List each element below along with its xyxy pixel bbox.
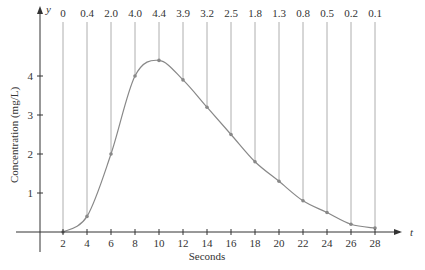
y-tick-label: 3 [28, 109, 34, 121]
value-label: 0.4 [80, 7, 94, 19]
data-point [229, 133, 233, 137]
data-point [253, 160, 257, 164]
data-point [109, 152, 113, 156]
x-tick-label: 24 [322, 237, 334, 249]
x-axis-symbol: t [410, 226, 414, 238]
concentration-curve [63, 60, 375, 232]
value-label: 1.8 [248, 7, 262, 19]
concentration-chart: 00.42.04.04.43.93.22.51.81.30.80.50.20.1… [0, 0, 425, 270]
data-point [133, 74, 137, 78]
x-tick-label: 18 [250, 237, 262, 249]
x-tick-label: 6 [108, 237, 114, 249]
x-tick-label: 28 [370, 237, 382, 249]
y-axis-arrow-icon [37, 6, 43, 14]
value-label: 0.8 [296, 7, 310, 19]
x-tick-label: 16 [226, 237, 238, 249]
x-tick-label: 20 [274, 237, 286, 249]
value-label: 0.2 [344, 7, 358, 19]
x-tick-label: 26 [346, 237, 358, 249]
y-axis-symbol: y [45, 3, 51, 15]
value-label: 1.3 [272, 7, 286, 19]
x-tick-label: 8 [132, 237, 138, 249]
x-tick-label: 12 [178, 237, 189, 249]
x-tick-label: 14 [202, 237, 214, 249]
data-point [181, 78, 185, 82]
x-tick-label: 22 [298, 237, 309, 249]
value-label: 4.4 [152, 7, 166, 19]
value-label: 3.2 [200, 7, 214, 19]
x-tick-label: 4 [84, 237, 90, 249]
x-tick-label: 2 [60, 237, 66, 249]
value-label: 3.9 [176, 7, 190, 19]
y-tick-label: 1 [28, 187, 34, 199]
y-tick-label: 4 [28, 70, 34, 82]
value-label: 0 [60, 7, 66, 19]
data-point [301, 199, 305, 203]
value-label: 0.5 [320, 7, 334, 19]
data-point [157, 59, 161, 63]
data-point [205, 105, 209, 109]
value-label: 4.0 [128, 7, 142, 19]
y-axis-title: Concentration (mg/L) [8, 87, 21, 184]
value-label: 2.5 [224, 7, 238, 19]
x-axis-arrow-icon [394, 229, 402, 235]
data-point [325, 211, 329, 215]
y-tick-label: 2 [28, 148, 34, 160]
data-point [349, 222, 353, 226]
value-label: 2.0 [104, 7, 118, 19]
x-axis-title: Seconds [189, 250, 226, 262]
value-label: 0.1 [368, 7, 382, 19]
x-tick-label: 10 [154, 237, 166, 249]
data-point [85, 215, 89, 219]
data-point [277, 180, 281, 184]
